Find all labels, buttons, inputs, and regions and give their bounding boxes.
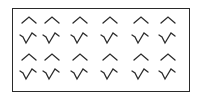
check-caret-glyph: [101, 33, 117, 43]
check-caret-glyph: [132, 33, 148, 43]
check-caret-glyph: [43, 69, 59, 79]
caret-glyph: [134, 17, 148, 23]
caret-glyph: [73, 54, 87, 60]
glyph-grid: [0, 0, 199, 102]
check-caret-glyph: [159, 33, 175, 43]
caret-glyph: [161, 17, 175, 23]
check-caret-glyph: [43, 33, 59, 43]
caret-glyph: [103, 17, 117, 23]
caret-glyph: [134, 54, 148, 60]
caret-glyph: [22, 17, 36, 23]
check-caret-glyph: [159, 69, 175, 79]
check-caret-glyph: [71, 33, 87, 43]
check-caret-glyph: [20, 33, 36, 43]
check-caret-glyph: [20, 69, 36, 79]
caret-glyph: [73, 17, 87, 23]
caret-glyph: [161, 54, 175, 60]
caret-glyph: [22, 54, 36, 60]
check-caret-glyph: [71, 69, 87, 79]
caret-glyph: [45, 54, 59, 60]
caret-glyph: [45, 17, 59, 23]
check-caret-glyph: [132, 69, 148, 79]
caret-glyph: [103, 54, 117, 60]
check-caret-glyph: [101, 69, 117, 79]
